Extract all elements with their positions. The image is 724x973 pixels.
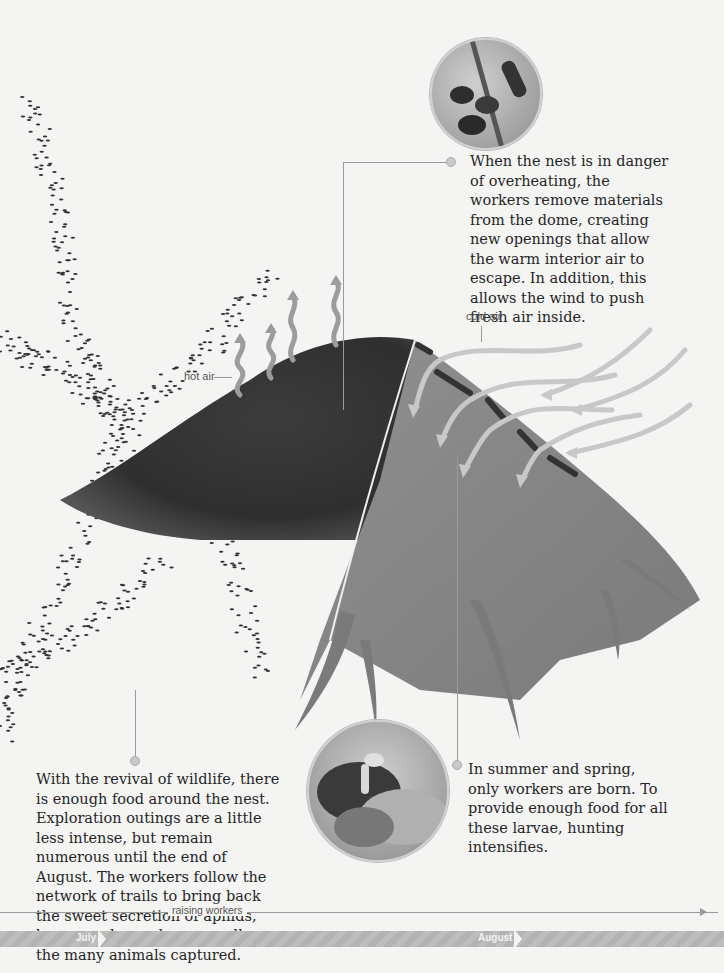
hot-air-label: hot air: [184, 370, 215, 382]
leader-line: [457, 455, 458, 763]
leader-line: [343, 162, 344, 410]
callout-bullet: [130, 756, 140, 766]
hot-air-leader: [214, 377, 232, 378]
timeline-line: [0, 912, 718, 913]
leader-line: [135, 690, 136, 760]
cold-air-label: cold air: [466, 310, 501, 322]
timeline-phase-label: raising workers: [168, 904, 247, 916]
timeline-arrow-icon: [700, 908, 707, 916]
callout-bullet: [446, 157, 456, 167]
month-july: July: [76, 932, 96, 943]
callout-bullet: [452, 760, 462, 770]
timeline-bar: [0, 931, 724, 947]
ant-with-prey-photo: [307, 720, 449, 862]
ventilation-callout: When the nest is in danger of overheatin…: [470, 152, 670, 328]
chevron-right-icon: [98, 929, 106, 949]
larvae-callout: In summer and spring, only workers are b…: [468, 760, 668, 858]
cold-air-leader: [481, 326, 482, 342]
month-august: August: [478, 932, 512, 943]
leader-line: [343, 162, 447, 163]
chevron-right-icon: [514, 929, 522, 949]
ants-on-stem-photo: [430, 38, 542, 150]
